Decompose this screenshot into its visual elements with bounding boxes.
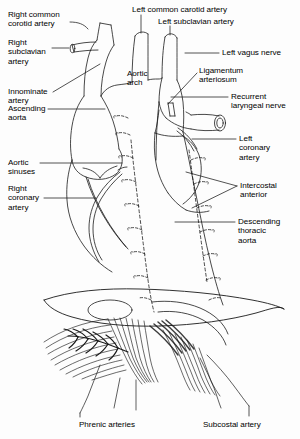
label-phrenic-arteries: Phrenic arteries [79, 420, 135, 429]
label-aortic-sinuses: Aortic sinuses [8, 158, 35, 177]
label-left-coronary-artery: Left coronary artery [239, 134, 270, 162]
anatomical-diagram-page: Right common corotid artery Right subcla… [0, 0, 300, 439]
label-aortic-arch: Aortic arch [127, 69, 147, 88]
diaphragm-crus-shading [150, 320, 194, 355]
caval-opening [88, 300, 132, 320]
label-left-vagus-nerve: Left vagus nerve [222, 48, 281, 57]
descending-thoracic-aorta-shape [156, 102, 223, 305]
right-coronary-artery-shape [89, 172, 122, 262]
label-left-subclavian-artery: Left subclavian artery [158, 17, 234, 26]
left-heart-border [154, 133, 209, 212]
left-coronary-artery-shape [177, 128, 197, 151]
intercostal-arteries [116, 116, 221, 300]
ligamentum-arteriosum-shape [168, 103, 175, 116]
label-descending-thoracic-aorta: Descending thoracic aorta [238, 217, 280, 245]
label-right-subclavian-artery: Right subclavian artery [8, 38, 46, 66]
diaphragm-dome [44, 289, 284, 326]
aortic-arch-body [159, 78, 184, 132]
label-left-common-carotid-artery: Left common carotid artery [132, 5, 227, 14]
label-ligamentum-arteriosum: Ligamentum arteriosum [199, 66, 243, 85]
ascending-aorta-shape [71, 96, 120, 160]
label-intercostal-anterior: Intercostal anterior [240, 181, 277, 200]
label-subcostal-artery: Subcostal artery [203, 420, 261, 429]
label-right-common-carotid-artery: Right common corotid artery [8, 10, 60, 29]
aorta-hidden-segment [131, 140, 207, 312]
label-ascending-aorta: Ascending aorta [8, 104, 45, 123]
aortic-sinuses-shape [72, 149, 127, 179]
pulmonary-artery-cut-end [186, 112, 226, 131]
phrenic-leader-fibers [80, 365, 136, 413]
label-recurrent-laryngeal-nerve: Recurrent laryngeal nerve [231, 92, 286, 111]
diaphragm-fibers-center [108, 318, 158, 384]
left-subclavian-artery-shape [162, 34, 177, 80]
diaphragm-fibers-left [44, 319, 126, 380]
pulmonary-trunk-shape [155, 102, 191, 136]
label-right-coronary-artery: Right coronary artery [8, 184, 39, 212]
right-common-carotid-shape [97, 23, 114, 45]
label-innominate-artery: Innominate artery [8, 87, 48, 106]
